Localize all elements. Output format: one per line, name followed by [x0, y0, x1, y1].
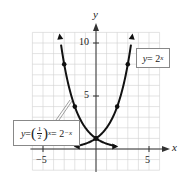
label-paren-open: ( — [31, 126, 36, 141]
fraction-numerator: 1 — [38, 126, 42, 133]
fraction-denominator: 2 — [38, 134, 42, 141]
y-tick-label-5: 5 — [84, 90, 89, 100]
label-2-to-x: y = 2x — [136, 48, 170, 68]
x-tick-label-neg5: −5 — [36, 155, 47, 165]
label-eq: = 2 — [147, 53, 160, 64]
graph-canvas — [0, 0, 184, 174]
x-tick-label-5: 5 — [145, 155, 150, 165]
label-exp: x — [160, 54, 163, 62]
y-tick-label-10: 10 — [79, 37, 89, 47]
label-exp2: −x — [64, 129, 72, 137]
y-axis-label: y — [93, 9, 98, 20]
label-half-to-x: y = (12)x = 2−x — [13, 120, 80, 146]
label-eq2: = 2 — [51, 128, 64, 139]
x-axis-label: x — [172, 142, 177, 153]
label-fraction: 12 — [37, 126, 42, 141]
